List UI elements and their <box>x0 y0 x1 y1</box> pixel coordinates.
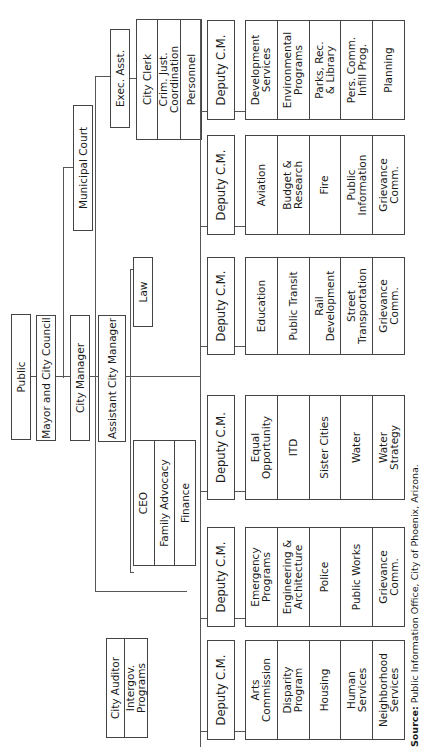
deputy-label: Deputy C.M. <box>216 35 227 106</box>
public-box: Public <box>11 314 31 440</box>
connector <box>235 226 245 227</box>
connector <box>235 111 245 112</box>
deputy-label: Deputy C.M. <box>216 412 227 483</box>
connector <box>235 618 245 619</box>
department: Budget & Research <box>277 136 309 234</box>
department: Education <box>246 258 277 354</box>
city-clerk-group: City Clerk Crim. Just. Coordination Pers… <box>136 19 202 140</box>
deputy-cm-box: Deputy C.M. <box>207 395 235 500</box>
department: Public Works <box>340 528 372 626</box>
department: Water <box>340 396 372 499</box>
connector <box>200 491 207 492</box>
department-list: Development ServicesEnvironmental Progra… <box>245 20 405 120</box>
department-list: Arts CommissionDisparity ProgramHousingH… <box>245 640 405 740</box>
connector <box>235 731 245 732</box>
department-list: Equal OpportunityITDSister CitiesWaterWa… <box>245 395 405 500</box>
connector <box>235 346 245 347</box>
finance: Finance <box>174 441 195 565</box>
department: Neighborhood Services <box>372 641 404 739</box>
deputy-label: Deputy C.M. <box>216 542 227 613</box>
connector <box>130 572 134 573</box>
law-label: Law <box>138 282 149 303</box>
deputy-label: Deputy C.M. <box>216 271 227 342</box>
connector <box>63 168 64 378</box>
mayor-council-label: Mayor and City Council <box>41 317 52 438</box>
city-auditor: City Auditor <box>107 639 124 737</box>
connector <box>200 731 207 732</box>
personnel: Personnel <box>180 20 201 139</box>
connector <box>95 591 187 592</box>
ceo-group: CEO Family Advocacy Finance <box>133 440 196 566</box>
connector <box>63 167 73 168</box>
public-label: Public <box>16 361 27 392</box>
connector <box>235 491 245 492</box>
department: Parks, Rec. & Library <box>309 21 341 119</box>
deputy-cm-box: Deputy C.M. <box>207 257 235 355</box>
source-label: Source: <box>409 706 420 747</box>
connector <box>126 376 200 377</box>
deputy-label: Deputy C.M. <box>216 150 227 221</box>
department: Emergency Programs <box>246 528 277 626</box>
municipal-court-box: PublicMunicipal Court <box>73 105 93 231</box>
city-manager-label: City Manager <box>75 343 86 413</box>
department: Pers. Comm. Infill Prog. <box>340 21 372 119</box>
exec-asst-box: Exec. Asst. <box>110 29 130 128</box>
deputy-cm-box: Deputy C.M. <box>207 640 235 740</box>
deputy-cm-box: Deputy C.M. <box>207 135 235 235</box>
department: Environmental Programs <box>277 21 309 119</box>
department: Development Services <box>246 21 277 119</box>
crim-just-coordination: Crim. Just. Coordination <box>157 20 180 139</box>
department: Police <box>309 528 341 626</box>
law-box: Law <box>133 257 153 327</box>
department: Fire <box>309 136 341 234</box>
department: Public Transit <box>277 258 309 354</box>
department: Rail Development <box>309 258 341 354</box>
city-manager-box: City Manager <box>70 315 90 441</box>
department: ITD <box>277 396 309 499</box>
source-note: Source: Public Information Office, City … <box>409 464 420 747</box>
connector <box>200 346 207 347</box>
department: Housing <box>309 641 341 739</box>
department: Grievance Comm. <box>372 258 404 354</box>
department: Aviation <box>246 136 277 234</box>
connector <box>95 77 96 592</box>
department: Public Information <box>340 136 372 234</box>
connector <box>200 226 207 227</box>
city-clerk: City Clerk <box>137 20 157 139</box>
family-advocacy: Family Advocacy <box>154 441 175 565</box>
exec-asst-label: Exec. Asst. <box>115 50 126 107</box>
connector <box>130 270 131 573</box>
department: Disparity Program <box>277 641 309 739</box>
org-chart: Public Mayor and City Council City Manag… <box>0 0 425 755</box>
intergov-programs: Intergov. Programs <box>124 639 147 737</box>
city-auditor-group: City Auditor Intergov. Programs <box>106 638 148 738</box>
department-list: Emergency ProgramsEngineering & Architec… <box>245 527 405 627</box>
department: Planning <box>372 21 404 119</box>
department: Equal Opportunity <box>246 396 277 499</box>
connector <box>200 618 207 619</box>
department: Water Strategy <box>372 396 404 499</box>
deputy-label: Deputy C.M. <box>216 655 227 726</box>
mayor-council-box: Mayor and City Council <box>36 315 56 441</box>
connector <box>90 376 98 377</box>
department: Arts Commission <box>246 641 277 739</box>
deputy-bus <box>200 19 201 747</box>
department: Sister Cities <box>309 396 341 499</box>
department-list: EducationPublic TransitRail DevelopmentS… <box>245 257 405 355</box>
department: Engineering & Architecture <box>277 528 309 626</box>
source-text: Public Information Office, City of Phoen… <box>409 464 420 706</box>
department: Human Services <box>340 641 372 739</box>
department: Street Transportation <box>340 258 372 354</box>
department-list: AviationBudget & ResearchFirePublic Info… <box>245 135 405 235</box>
municipal-court-label: Municipal Court <box>78 127 89 209</box>
department: Grievance Comm. <box>372 136 404 234</box>
assistant-city-manager-box: Assistant City Manager <box>98 315 126 442</box>
assistant-city-manager-label: Assistant City Manager <box>107 318 118 439</box>
ceo: CEO <box>134 441 154 565</box>
connector <box>200 111 207 112</box>
deputy-cm-box: Deputy C.M. <box>207 527 235 627</box>
department: Grievance Comm. <box>372 528 404 626</box>
connector <box>95 76 110 77</box>
deputy-cm-box: Deputy C.M. <box>207 20 235 120</box>
